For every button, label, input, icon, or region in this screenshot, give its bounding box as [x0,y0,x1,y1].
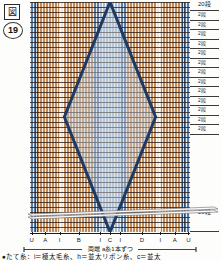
scale-top-label: 20段 [198,1,211,7]
axis-label-i-8: I [160,236,162,244]
row-scale: 20段2段2段2段2段2段2段2段2段2段2段2段2段2段20段 [190,0,221,232]
axis-label-d-7: D [140,236,144,244]
axis-label-a-9: A [173,236,177,244]
break-squiggle [28,206,218,219]
scale-tick-last [190,134,219,135]
scale-tick-label-10: 2段 [198,107,205,112]
figure-box-marker: 図 [4,4,20,20]
axis-label-c-5: C [108,236,112,244]
scale-tick-label-7: 2段 [198,79,205,84]
motif-diamond-path [64,2,155,232]
scale-tick-label-2: 2段 [198,31,205,36]
figure-panel: 図 19 20段2段2段2段2段2段2段2段2段2段2段2段2段2段20段 UA… [0,0,221,261]
axis-label-i-6: I [120,236,122,244]
axis-label-u-10: U [186,236,190,244]
axis-label-i-2: I [59,236,61,244]
axis-label-b-3: B [77,236,81,244]
figure-caption: ●たて糸：i＝極太毛糸、h＝並太リボン糸、c＝並太 [2,253,221,261]
axis-label-a-1: A [43,236,47,244]
scale-tick-label-3: 2段 [198,41,205,46]
axis-label-u-0: U [29,236,33,244]
diamond-motif [30,2,190,232]
scale-tick-label-9: 2段 [198,98,205,103]
scale-tick-label-5: 2段 [198,60,205,65]
figure-number-badge: 19 [3,22,23,39]
measure-note: 両端 a糸1本ずつ [0,245,221,253]
scale-tick-label-1: 2段 [198,22,205,27]
axis-labels: UAIBICIDIAU [30,236,190,245]
scale-tick-label-8: 2段 [198,88,205,93]
scale-tick-label-4: 2段 [198,50,205,55]
scale-tick-label-6: 2段 [198,69,205,74]
scale-tick-label-11: 2段 [198,117,205,122]
scale-tick-label-12: 2段 [198,126,205,131]
weaving-draft-grid [30,2,190,232]
axis-label-i-4: I [100,236,102,244]
scale-baseline-tick [190,231,219,232]
scale-tick-label-0: 2段 [198,12,205,17]
